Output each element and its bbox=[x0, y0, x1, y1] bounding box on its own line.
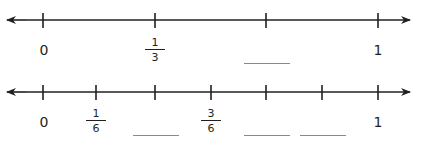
fraction-one-sixth: 1 6 bbox=[86, 108, 106, 134]
numerator: 1 bbox=[86, 108, 106, 121]
answer-blank[interactable] bbox=[133, 135, 179, 136]
answer-blank[interactable] bbox=[244, 135, 290, 136]
label-zero: 0 bbox=[29, 43, 59, 57]
numerator: 1 bbox=[145, 37, 165, 50]
denominator: 6 bbox=[86, 121, 106, 134]
answer-blank[interactable] bbox=[244, 63, 290, 64]
number-line-thirds bbox=[7, 13, 410, 28]
label-one: 1 bbox=[363, 115, 393, 129]
number-line-sixths bbox=[7, 85, 410, 100]
answer-blank[interactable] bbox=[300, 135, 346, 136]
label-one: 1 bbox=[363, 43, 393, 57]
denominator: 6 bbox=[201, 121, 221, 134]
numerator: 3 bbox=[201, 108, 221, 121]
fraction-three-sixths: 3 6 bbox=[201, 108, 221, 134]
label-zero: 0 bbox=[29, 115, 59, 129]
denominator: 3 bbox=[145, 50, 165, 63]
fraction-one-third: 1 3 bbox=[145, 37, 165, 63]
